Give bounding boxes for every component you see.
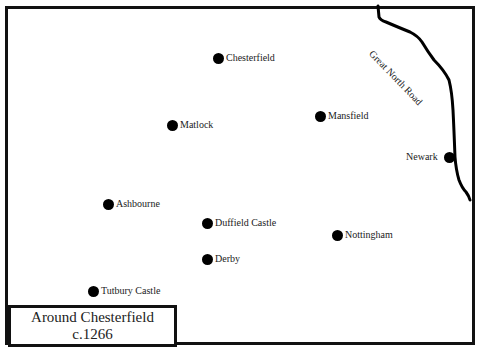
place-newark: Newark: [406, 150, 455, 164]
place-label: Newark: [406, 150, 438, 164]
place-tutbury-castle: Tutbury Castle: [88, 284, 160, 298]
place-label: Chesterfield: [226, 51, 275, 65]
town-dot-icon: [103, 199, 114, 210]
town-dot-icon: [202, 254, 213, 265]
place-mansfield: Mansfield: [315, 109, 369, 123]
castle-dot-icon: [202, 218, 213, 229]
place-derby: Derby: [202, 252, 240, 266]
town-dot-icon: [444, 152, 455, 163]
place-chesterfield: Chesterfield: [213, 51, 275, 65]
town-dot-icon: [315, 111, 326, 122]
place-duffield-castle: Duffield Castle: [202, 216, 276, 230]
map-date: c.1266: [11, 326, 174, 343]
place-label: Tutbury Castle: [101, 284, 160, 298]
castle-dot-icon: [88, 286, 99, 297]
place-label: Derby: [215, 252, 240, 266]
place-ashbourne: Ashbourne: [103, 197, 160, 211]
map-title-box: Around Chesterfield c.1266: [8, 305, 177, 347]
place-label: Matlock: [180, 118, 213, 132]
place-label: Duffield Castle: [215, 216, 276, 230]
map-title: Around Chesterfield: [11, 309, 174, 326]
place-label: Nottingham: [345, 228, 393, 242]
town-dot-icon: [167, 120, 178, 131]
place-matlock: Matlock: [167, 118, 213, 132]
town-dot-icon: [213, 53, 224, 64]
place-label: Mansfield: [328, 109, 369, 123]
place-nottingham: Nottingham: [332, 228, 393, 242]
place-label: Ashbourne: [116, 197, 160, 211]
town-dot-icon: [332, 230, 343, 241]
map: Great North Road Chesterfield Matlock Ma…: [0, 0, 479, 352]
